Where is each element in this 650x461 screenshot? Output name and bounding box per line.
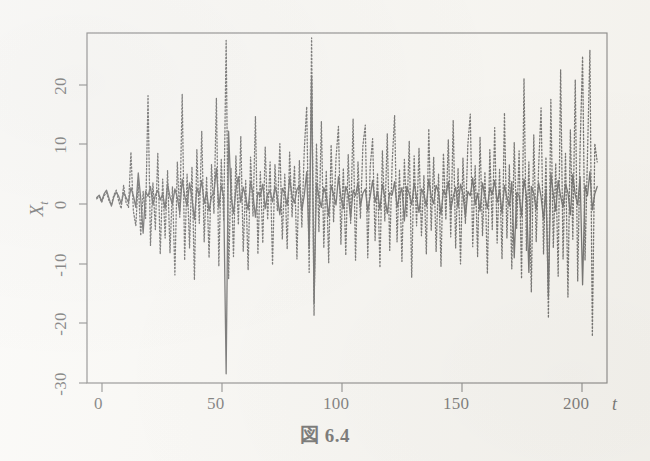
figure-caption: 図 6.4 <box>0 420 650 447</box>
series-layer <box>97 38 597 374</box>
figure-page: 20 10 0 -10 -20 -30 0 50 100 150 200 Xt … <box>0 0 650 461</box>
y-axis-tick-marks <box>79 85 87 383</box>
dotted-series <box>97 38 597 336</box>
time-series-plot <box>0 0 650 461</box>
x-axis-tick-marks <box>102 383 582 392</box>
